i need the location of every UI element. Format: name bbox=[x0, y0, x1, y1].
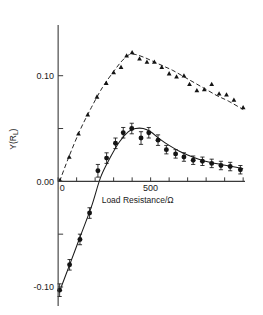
data-point-circle bbox=[104, 156, 109, 161]
data-point-circle bbox=[173, 151, 178, 156]
y-tick-label: 0.00 bbox=[37, 177, 55, 187]
data-point-triangle bbox=[232, 98, 237, 102]
fit-curve-upper-series bbox=[60, 54, 244, 181]
data-point-circle bbox=[209, 161, 214, 166]
data-point-triangle bbox=[224, 92, 229, 96]
data-marker-group bbox=[57, 50, 245, 293]
data-point-circle bbox=[200, 159, 205, 164]
data-point-circle bbox=[181, 155, 186, 160]
data-point-circle bbox=[228, 164, 233, 169]
data-point-circle bbox=[95, 168, 100, 173]
data-point-circle bbox=[139, 136, 144, 141]
x-tick-label: 500 bbox=[143, 183, 158, 193]
fit-curve-lower-series bbox=[59, 128, 243, 292]
scatter-plot: 0500-0.100.000.10Load Resistance/ΩY(RL) bbox=[0, 0, 263, 315]
data-point-circle bbox=[164, 147, 169, 152]
data-point-circle bbox=[146, 130, 151, 135]
data-point-triangle bbox=[145, 59, 150, 63]
data-point-triangle bbox=[130, 50, 135, 54]
data-point-triangle bbox=[167, 71, 172, 75]
data-point-triangle bbox=[209, 82, 214, 86]
data-point-triangle bbox=[195, 88, 200, 92]
data-point-triangle bbox=[95, 94, 100, 98]
data-point-circle bbox=[67, 262, 72, 267]
data-point-triangle bbox=[174, 74, 179, 78]
x-axis-title: Load Resistance/Ω bbox=[102, 195, 174, 205]
data-point-triangle bbox=[76, 131, 81, 135]
data-point-triangle bbox=[187, 82, 192, 86]
data-point-circle bbox=[129, 126, 134, 131]
data-point-circle bbox=[219, 163, 224, 168]
data-point-triangle bbox=[85, 112, 90, 116]
y-axis-title: Y(RL) bbox=[8, 128, 19, 149]
data-point-triangle bbox=[111, 70, 116, 74]
data-point-circle bbox=[156, 138, 161, 143]
data-point-circle bbox=[78, 237, 83, 242]
y-tick-label: 0.10 bbox=[37, 71, 55, 81]
data-point-triangle bbox=[119, 65, 124, 69]
data-point-circle bbox=[113, 141, 118, 146]
fit-curve-group bbox=[59, 54, 243, 292]
y-tick-label: -0.10 bbox=[34, 282, 55, 292]
axes-group bbox=[58, 25, 245, 306]
data-point-triangle bbox=[159, 65, 164, 69]
data-point-circle bbox=[87, 211, 92, 216]
data-point-triangle bbox=[67, 155, 72, 159]
x-tick-label: 0 bbox=[60, 183, 65, 193]
data-point-triangle bbox=[241, 105, 246, 109]
data-point-circle bbox=[191, 158, 196, 163]
data-point-triangle bbox=[182, 73, 187, 77]
data-point-triangle bbox=[137, 56, 142, 60]
chart-figure: 0500-0.100.000.10Load Resistance/ΩY(RL) bbox=[0, 0, 263, 315]
data-point-triangle bbox=[217, 91, 222, 95]
error-bar-group bbox=[58, 123, 243, 296]
data-point-triangle bbox=[104, 81, 109, 85]
data-point-circle bbox=[238, 167, 243, 172]
data-point-circle bbox=[121, 130, 126, 135]
